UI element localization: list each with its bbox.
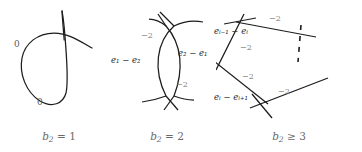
- caption-subscript: 2: [49, 135, 54, 144]
- caption-symbol: b: [150, 130, 157, 142]
- label-self-intersection-upper: −2: [141, 32, 153, 40]
- label-self-intersection-left: 0: [14, 40, 20, 49]
- nodal-cubic-curve: [0, 0, 118, 120]
- label-self-intersection-left-upper: −2: [240, 44, 252, 52]
- caption-relation: =: [57, 130, 66, 142]
- label-self-intersection-top: −2: [269, 15, 281, 23]
- caption-value: 3: [299, 130, 306, 142]
- label-self-intersection-left-lower: −2: [242, 73, 254, 81]
- label-divisor-upper-left: eᵢ₋₁ − eᵢ: [214, 27, 248, 36]
- label-divisor-left: e₁ − e₂: [111, 56, 140, 65]
- caption-panel-1: b2 = 1: [0, 130, 118, 144]
- caption-subscript: 2: [279, 135, 284, 144]
- polygon-chain-configuration: [216, 0, 362, 120]
- panel-b2-equals-1: 0 0 b2 = 1: [0, 0, 118, 152]
- caption-value: 1: [69, 130, 76, 142]
- panel-b2-at-least-3: eᵢ₋₁ − eᵢ eᵢ − eᵢ₊₁ −2 −2 −2 −2 b2 ≥ 3: [216, 0, 362, 152]
- figure-container: 0 0 b2 = 1 e₁ − e₂ e₂ − e₁ −2: [0, 0, 362, 152]
- label-divisor-lower-left: eᵢ − eᵢ₊₁: [214, 93, 248, 102]
- panel-b2-equals-2: e₁ − e₂ e₂ − e₁ −2 −2 b2 = 2: [108, 0, 226, 152]
- caption-value: 2: [177, 130, 184, 142]
- caption-relation: ≥: [287, 130, 296, 142]
- label-self-intersection-bottom: 0: [37, 98, 43, 107]
- caption-subscript: 2: [157, 135, 162, 144]
- caption-panel-2: b2 = 2: [108, 130, 226, 144]
- label-divisor-right: e₂ − e₁: [178, 49, 207, 58]
- caption-relation: =: [165, 130, 174, 142]
- label-self-intersection-lower: −2: [176, 81, 188, 89]
- caption-symbol: b: [42, 130, 49, 142]
- caption-symbol: b: [272, 130, 279, 142]
- label-self-intersection-bottom: −2: [278, 88, 290, 96]
- caption-panel-3: b2 ≥ 3: [216, 130, 362, 144]
